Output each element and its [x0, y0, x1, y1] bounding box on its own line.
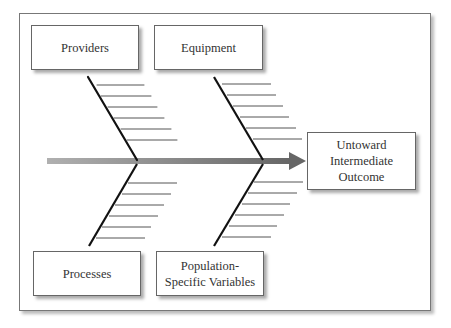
cause-box-processes: Processes	[33, 251, 141, 296]
bone-providers	[88, 77, 177, 160]
effect-box: Untoward Intermediate Outcome	[307, 132, 416, 190]
bone-equipment	[214, 77, 302, 160]
cause-box-population: Population- Specific Variables	[156, 251, 264, 296]
cause-label: Equipment	[181, 40, 236, 56]
effect-label: Untoward Intermediate Outcome	[330, 137, 393, 185]
cause-box-providers: Providers	[31, 25, 139, 70]
bone-processes	[89, 164, 177, 246]
cause-label: Processes	[63, 266, 112, 282]
bone-population	[214, 164, 303, 246]
spine-arrow	[47, 152, 306, 170]
cause-label: Providers	[61, 40, 109, 56]
cause-label: Population- Specific Variables	[165, 258, 255, 290]
cause-box-equipment: Equipment	[154, 25, 263, 70]
